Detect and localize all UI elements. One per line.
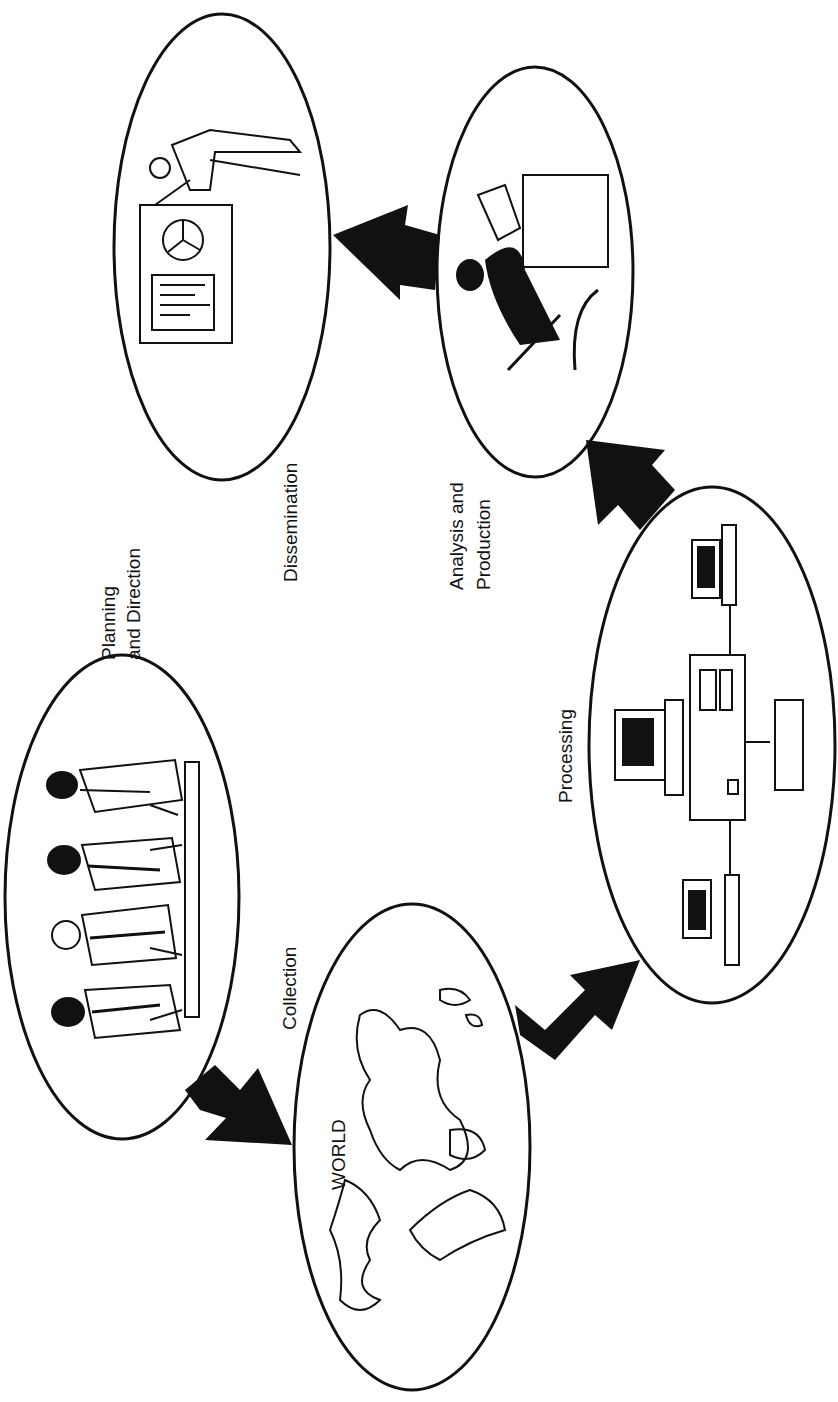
planning-ellipse [5,655,239,1139]
presenter-with-charts-icon [140,130,300,343]
arrow-collection-to-processing [515,960,640,1060]
analysis-label-line1: Analysis and [446,482,467,590]
dissemination-label: Dissemination [280,463,301,582]
stage-collection: WORLD Collection [279,904,530,1390]
arrow-analysis-to-dissemination [333,205,440,300]
processing-label: Processing [555,709,576,803]
analyst-at-desk-icon [456,175,608,370]
computer-network-icon [615,525,803,965]
planning-label-line1: Planning [98,586,119,660]
stage-processing: Processing [555,487,835,1003]
meeting-people-icon [46,760,199,1038]
planning-label-line2: and Direction [123,548,144,660]
arrow-processing-to-analysis [586,440,675,530]
stage-dissemination: Dissemination [114,14,330,582]
collection-label: Collection [279,947,300,1030]
arrow-planning-to-collection [185,1065,292,1145]
world-map-icon [330,989,505,1310]
stage-planning: Planning and Direction [5,548,239,1139]
intelligence-cycle-diagram: Planning and Direction WORLD Collection [0,0,838,1402]
analysis-label-line2: Production [473,499,494,590]
world-label: WORLD [328,1119,349,1190]
